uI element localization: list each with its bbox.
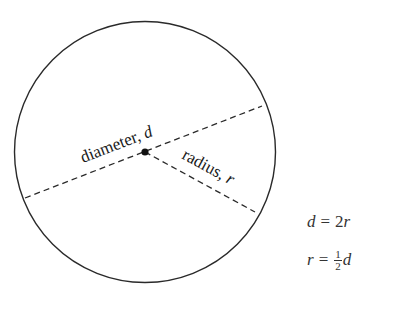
diameter-label-word: diameter, [78,125,148,167]
formula-radius-lhs: r [307,250,314,269]
formula-diameter: d=2r [307,212,350,232]
formula-diameter-equals: = [316,212,336,231]
formula-radius-rhs-var: d [343,250,352,269]
formula-diameter-coefficient: 2 [335,212,344,231]
formula-radius-equals: = [314,250,334,269]
formula-diameter-lhs: d [307,212,316,231]
diameter-label: diameter, d [78,121,156,166]
formula-diameter-rhs-var: r [344,212,351,231]
fraction-denominator: 2 [334,261,342,272]
formula-radius: r=12d [307,250,351,273]
center-point [141,148,148,155]
radius-label-word: radius, [179,145,232,186]
formula-radius-fraction: 12 [334,249,342,272]
radius-label: radius, r [179,145,238,189]
